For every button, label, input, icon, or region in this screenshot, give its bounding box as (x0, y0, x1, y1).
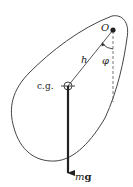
pivot-point (110, 27, 115, 32)
angle-label: φ (102, 55, 109, 66)
physical-pendulum-diagram: O h φ c.g. mg (0, 0, 133, 187)
distance-label: h (81, 54, 87, 65)
weight-label: mg (75, 171, 91, 182)
center-of-gravity-label: c.g. (37, 81, 54, 91)
rigid-body-outline (11, 16, 127, 161)
pivot-label: O (101, 22, 109, 33)
weight-label-mass: m (75, 171, 84, 182)
weight-label-gravity: g (84, 171, 91, 182)
